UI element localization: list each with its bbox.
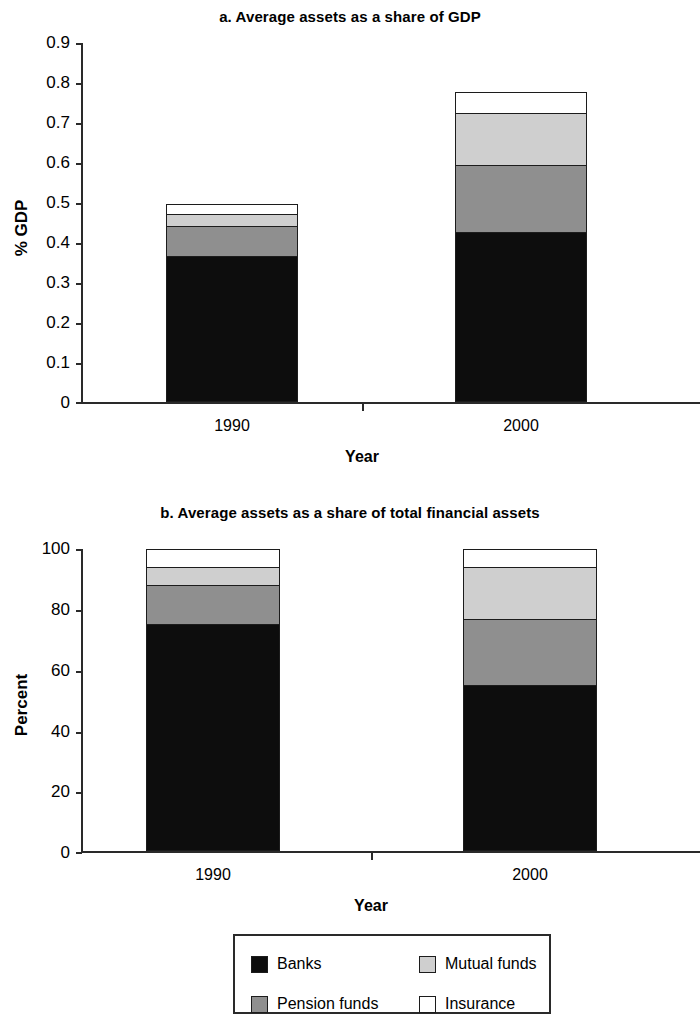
- panel-a-seg-mutual-funds-2000[interactable]: [455, 113, 587, 165]
- panel-a-ytick: [76, 283, 82, 285]
- panel-b-x-axis-title: Year: [354, 897, 388, 915]
- panel-b-seg-banks-2000[interactable]: [463, 685, 597, 851]
- panel-b-seg-insurance-2000[interactable]: [463, 549, 597, 567]
- panel-a-seg-banks-2000[interactable]: [455, 232, 587, 402]
- panel-b-y-axis: [81, 549, 83, 853]
- panel-a-bar-2000[interactable]: [455, 92, 587, 402]
- panel-b-xtick-label-1990: 1990: [195, 866, 231, 884]
- legend-label-banks: Banks: [277, 955, 321, 973]
- panel-b-ytick: [76, 792, 82, 794]
- panel-b-x-axis: [81, 851, 700, 853]
- legend-swatch-banks-icon: [251, 956, 268, 973]
- panel-a-ytick-label-0.8: 0.8: [20, 73, 70, 93]
- panel-b-ytick: [76, 852, 82, 854]
- panel-b-ytick-label-20: 20: [20, 782, 70, 802]
- panel-b-seg-pension-funds-2000[interactable]: [463, 619, 597, 685]
- panel-a: a. Average assets as a share of GDP 0.9 …: [0, 0, 700, 490]
- panel-b-ytick: [76, 671, 82, 673]
- panel-a-ytick-label-0.7: 0.7: [20, 113, 70, 133]
- panel-a-xtick-label-2000: 2000: [503, 417, 539, 435]
- panel-a-y-axis: [81, 43, 83, 404]
- panel-a-ytick-label-0.9: 0.9: [20, 33, 70, 53]
- panel-a-xtick-label-1990: 1990: [214, 417, 250, 435]
- panel-a-x-axis-title: Year: [345, 448, 379, 466]
- panel-a-bar-1990[interactable]: [166, 204, 298, 402]
- legend-swatch-mutual-funds-icon: [419, 956, 436, 973]
- panel-b-bar-2000[interactable]: [463, 549, 597, 851]
- panel-a-seg-banks-1990[interactable]: [166, 256, 298, 402]
- panel-b-xtick-label-2000: 2000: [512, 866, 548, 884]
- legend-label-mutual-funds: Mutual funds: [445, 955, 537, 973]
- panel-a-ytick: [76, 43, 82, 45]
- panel-a-ytick: [76, 402, 82, 404]
- panel-a-xtick: [362, 404, 364, 411]
- panel-b-seg-pension-funds-1990[interactable]: [146, 585, 280, 624]
- panel-a-ytick: [76, 323, 82, 325]
- panel-b-seg-mutual-funds-1990[interactable]: [146, 567, 280, 585]
- legend-grid: Banks Mutual funds Pension funds Insuran…: [251, 944, 587, 1018]
- panel-b-seg-mutual-funds-2000[interactable]: [463, 567, 597, 619]
- panel-a-plot-area: 0.9 0.8 0.7 0.6 0.5 0.4 0.3 0.2 0.1 0 % …: [0, 0, 700, 490]
- panel-a-ytick: [76, 123, 82, 125]
- panel-b-xtick: [371, 853, 373, 860]
- panel-a-ytick: [76, 203, 82, 205]
- panel-b-ytick: [76, 732, 82, 734]
- panel-a-ytick-label-0.3: 0.3: [20, 273, 70, 293]
- panel-b-ytick: [76, 610, 82, 612]
- legend-swatch-pension-funds-icon: [251, 996, 268, 1013]
- panel-a-ytick-label-0.1: 0.1: [20, 353, 70, 373]
- panel-b-ytick-label-80: 80: [20, 600, 70, 620]
- panel-b: b. Average assets as a share of total fi…: [0, 495, 700, 935]
- legend-item-pension-funds: Pension funds: [251, 995, 419, 1013]
- panel-a-y-axis-title: % GDP: [12, 200, 32, 257]
- panel-a-seg-pension-funds-2000[interactable]: [455, 165, 587, 232]
- panel-b-ytick: [76, 549, 82, 551]
- figure-legend: Banks Mutual funds Pension funds Insuran…: [233, 934, 551, 1014]
- panel-a-seg-pension-funds-1990[interactable]: [166, 226, 298, 256]
- legend-swatch-insurance-icon: [419, 996, 436, 1013]
- panel-b-seg-insurance-1990[interactable]: [146, 549, 280, 567]
- panel-b-ytick-label-0: 0: [20, 843, 70, 863]
- panel-a-x-axis: [81, 402, 700, 404]
- panel-a-ytick-label-0: 0: [20, 393, 70, 413]
- panel-b-bar-1990[interactable]: [146, 549, 280, 851]
- panel-a-ytick-label-0.6: 0.6: [20, 153, 70, 173]
- panel-b-ytick-label-100: 100: [20, 539, 70, 559]
- panel-b-seg-banks-1990[interactable]: [146, 624, 280, 851]
- panel-b-y-axis-title: Percent: [12, 674, 32, 736]
- panel-a-seg-insurance-2000[interactable]: [455, 92, 587, 113]
- legend-item-mutual-funds: Mutual funds: [419, 955, 587, 973]
- legend-label-pension-funds: Pension funds: [277, 995, 378, 1013]
- panel-a-seg-mutual-funds-1990[interactable]: [166, 214, 298, 226]
- panel-a-ytick: [76, 243, 82, 245]
- legend-label-insurance: Insurance: [445, 995, 515, 1013]
- panel-a-ytick: [76, 163, 82, 165]
- panel-a-ytick: [76, 363, 82, 365]
- panel-b-plot-area: 100 80 60 40 20 0 Percent 1990 2000 Y: [0, 495, 700, 935]
- legend-item-banks: Banks: [251, 955, 419, 973]
- panel-a-ytick-label-0.2: 0.2: [20, 313, 70, 333]
- legend-item-insurance: Insurance: [419, 995, 587, 1013]
- panel-a-ytick: [76, 83, 82, 85]
- panel-a-seg-insurance-1990[interactable]: [166, 204, 298, 214]
